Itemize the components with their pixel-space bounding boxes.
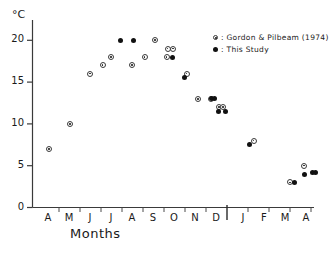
data-point (170, 46, 176, 52)
data-point (142, 54, 148, 60)
data-point (292, 180, 297, 185)
y-tick-label-15: 15 (6, 75, 24, 86)
legend-label-this-study: : This Study (221, 45, 269, 54)
data-point (118, 38, 123, 43)
x-tick-label-11: M (278, 212, 292, 223)
data-point (46, 146, 52, 152)
x-tick-label-8: D (209, 212, 223, 223)
y-tick-label-20: 20 (6, 33, 24, 44)
y-tick-marks (27, 40, 33, 207)
data-point (216, 109, 221, 114)
x-tick-label-9: J (236, 212, 250, 223)
scatter-chart-figure: °C 0 5 10 15 20 A M J J A S O N D J F M … (0, 0, 329, 255)
y-tick-label-10: 10 (6, 117, 24, 128)
data-point (313, 170, 318, 175)
y-axis-label: °C (12, 8, 25, 21)
y-tick-label-0: 0 (6, 201, 24, 212)
data-point (100, 62, 106, 68)
data-point (223, 109, 228, 114)
legend-label-gordon-pilbeam: : Gordon & Pilbeam (1974) (221, 33, 329, 42)
data-point (131, 38, 136, 43)
x-tick-label-6: O (167, 212, 181, 223)
x-tick-label-12: A (299, 212, 313, 223)
data-point (87, 71, 93, 77)
data-point (195, 96, 201, 102)
x-tick-label-2: J (83, 212, 97, 223)
data-point (67, 121, 73, 127)
x-axis-label: Months (70, 226, 121, 241)
data-point (301, 163, 307, 169)
legend-marker-this-study (213, 47, 218, 52)
data-point (164, 54, 170, 60)
y-tick-label-5: 5 (6, 159, 24, 170)
legend-marker-gordon-pilbeam (213, 35, 218, 40)
x-tick-label-1: M (62, 212, 76, 223)
x-tick-label-3: J (104, 212, 118, 223)
x-tick-label-5: S (146, 212, 160, 223)
data-point (108, 54, 114, 60)
x-tick-label-0: A (41, 212, 55, 223)
x-tick-label-10: F (257, 212, 271, 223)
x-tick-label-4: A (125, 212, 139, 223)
x-tick-label-7: N (188, 212, 202, 223)
